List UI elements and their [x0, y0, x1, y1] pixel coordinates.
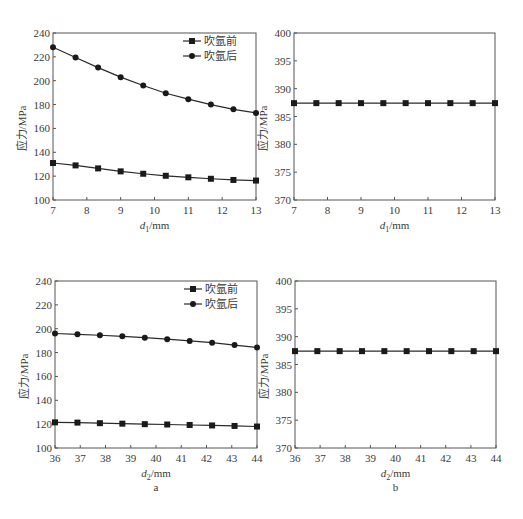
- square-marker: [209, 422, 215, 428]
- square-marker: [359, 348, 365, 354]
- y-axis-label: 应力/MPa: [256, 105, 269, 151]
- x-tick-label: 42: [201, 452, 212, 464]
- circle-marker: [208, 102, 214, 108]
- y-tick-label: 385: [275, 111, 292, 123]
- y-tick-label: 375: [275, 166, 292, 178]
- circle-marker: [118, 74, 124, 80]
- square-marker: [336, 100, 342, 106]
- legend-square-icon: [190, 286, 196, 292]
- x-tick-label: 10: [149, 204, 161, 216]
- square-marker: [493, 348, 499, 354]
- x-axis-label: d2/mm: [141, 467, 171, 482]
- y-tick-label: 390: [275, 83, 292, 95]
- square-marker: [380, 100, 386, 106]
- x-tick-label: 11: [423, 204, 434, 216]
- x-tick-label: 13: [251, 204, 263, 216]
- x-axis-label: d1/mm: [380, 219, 410, 234]
- y-tick-label: 180: [34, 99, 51, 111]
- square-marker: [492, 100, 498, 106]
- y-tick-label: 390: [276, 331, 293, 343]
- x-tick-label: 39: [365, 452, 377, 464]
- y-tick-label: 140: [34, 146, 51, 158]
- square-marker: [470, 100, 476, 106]
- y-tick-label: 240: [36, 275, 53, 287]
- square-marker: [291, 100, 297, 106]
- square-marker: [230, 177, 236, 183]
- x-tick-label: 8: [325, 204, 331, 216]
- y-tick-label: 380: [275, 138, 292, 150]
- y-tick-label: 220: [36, 299, 53, 311]
- square-marker: [187, 422, 193, 428]
- square-marker: [119, 421, 125, 427]
- y-tick-label: 400: [275, 27, 292, 39]
- legend-label: 吹氩前: [204, 34, 237, 47]
- y-tick-label: 375: [276, 414, 293, 426]
- x-axis-label: d2/mm: [381, 467, 411, 482]
- square-marker: [254, 424, 260, 430]
- square-marker: [164, 422, 170, 428]
- x-tick-label: 37: [75, 452, 87, 464]
- x-tick-label: 8: [84, 204, 90, 216]
- square-marker: [140, 171, 146, 177]
- square-marker: [97, 420, 103, 426]
- legend-circle-icon: [190, 301, 196, 307]
- circle-marker: [50, 44, 56, 50]
- x-tick-label: 11: [183, 204, 194, 216]
- x-tick-label: 39: [125, 452, 137, 464]
- square-marker: [185, 174, 191, 180]
- square-marker: [253, 178, 259, 184]
- circle-marker: [209, 340, 215, 346]
- x-tick-label: 38: [340, 452, 352, 464]
- square-marker: [73, 162, 79, 168]
- square-marker: [118, 168, 124, 174]
- square-marker: [232, 423, 238, 429]
- circle-marker: [52, 330, 58, 336]
- y-tick-label: 220: [34, 51, 51, 63]
- plot-frame: [295, 281, 496, 448]
- square-marker: [403, 100, 409, 106]
- square-marker: [314, 348, 320, 354]
- x-tick-label: 7: [50, 204, 56, 216]
- circle-marker: [73, 54, 79, 60]
- x-tick-label: 43: [226, 452, 238, 464]
- x-tick-label: 40: [151, 452, 163, 464]
- circle-marker: [140, 82, 146, 88]
- series-line: [55, 333, 257, 347]
- circle-marker: [187, 338, 193, 344]
- x-tick-label: 41: [415, 452, 426, 464]
- square-marker: [50, 160, 56, 166]
- circle-marker: [142, 335, 148, 341]
- y-tick-label: 140: [36, 394, 53, 406]
- x-tick-label: 9: [358, 204, 364, 216]
- y-tick-label: 395: [276, 303, 293, 315]
- legend-label: 吹氩后: [204, 49, 237, 62]
- square-marker: [447, 100, 453, 106]
- y-tick-label: 160: [36, 370, 53, 382]
- square-marker: [163, 173, 169, 179]
- y-tick-label: 120: [36, 418, 53, 430]
- square-marker: [95, 165, 101, 171]
- x-tick-label: 36: [290, 452, 302, 464]
- x-tick-label: 10: [389, 204, 401, 216]
- square-marker: [74, 420, 80, 426]
- circle-marker: [232, 342, 238, 348]
- square-marker: [426, 348, 432, 354]
- square-marker: [381, 348, 387, 354]
- circle-marker: [97, 332, 103, 338]
- y-tick-label: 200: [36, 323, 53, 335]
- legend-label: 吹氩前: [205, 282, 238, 295]
- chart-bottom-right: 370375380385390395400363738394041424344d…: [257, 275, 502, 493]
- x-axis-label: d1/mm: [140, 219, 170, 234]
- legend-label: 吹氩后: [205, 297, 238, 310]
- legend-square-icon: [189, 38, 195, 44]
- plot-frame: [294, 33, 495, 200]
- x-tick-label: 42: [440, 452, 451, 464]
- y-axis-label: 应力/MPa: [257, 353, 270, 399]
- x-tick-label: 12: [456, 204, 467, 216]
- y-tick-label: 200: [34, 75, 51, 87]
- square-marker: [358, 100, 364, 106]
- chart-top-left: 10012014016018020022024078910111213d1/mm…: [15, 27, 262, 234]
- circle-marker: [164, 336, 170, 342]
- square-marker: [337, 348, 343, 354]
- panel-label: a: [154, 481, 159, 493]
